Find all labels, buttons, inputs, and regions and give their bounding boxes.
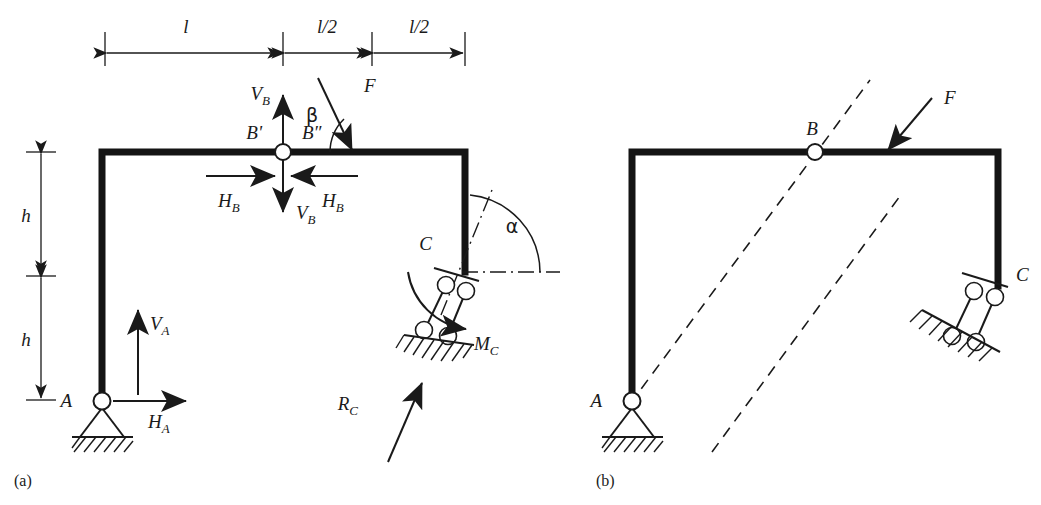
caption-a: (a) (14, 472, 32, 490)
pin-circle-a-b (624, 393, 641, 410)
joint-label-a-b: A (588, 390, 602, 411)
link-pin-lower-1 (416, 322, 433, 339)
angle-label-beta: β (306, 104, 318, 126)
panel-b: A B F (588, 80, 1029, 490)
joint-label-b-panel-b: B (806, 118, 818, 139)
line-of-action-ab (630, 80, 870, 404)
hinge-circle-b-panel-b (807, 144, 823, 160)
angle-label-alpha: α (506, 215, 519, 237)
reaction-label-ha: HA (147, 411, 170, 436)
reaction-rc: RC (337, 383, 422, 462)
dimension-span-l-half-2: l/2 (374, 16, 463, 53)
angle-arc-beta (330, 119, 344, 152)
dimension-label-l: l (183, 16, 188, 37)
pin-circle-a (94, 393, 111, 410)
joint-label-c-b: C (1016, 264, 1029, 285)
dimension-label-l-half-1: l/2 (317, 16, 338, 37)
dimension-span-l: l (107, 16, 281, 53)
dimension-span-l-half-1: l/2 (285, 16, 370, 53)
internal-force-vb-down: VB (283, 160, 316, 227)
hinge-b-panel-b: B (806, 118, 823, 160)
support-c-b: C (910, 264, 1029, 361)
link-pin-upper-1-b (966, 283, 983, 300)
moment-arc-mc (408, 272, 466, 329)
support-a-pin: A (58, 390, 133, 452)
reaction-ha: HA (113, 401, 186, 436)
figure-canvas: l l/2 l/2 h h (0, 0, 1041, 505)
reaction-label-va: VA (150, 313, 170, 338)
dimension-label-h-lower: h (21, 329, 31, 350)
dimension-label-h-upper: h (21, 205, 31, 226)
frame-members-b (632, 152, 998, 400)
moment-label-mc: MC (473, 333, 499, 358)
dimension-label-l-half-2: l/2 (409, 16, 430, 37)
applied-force-f-b: F (888, 87, 956, 150)
link-pin-upper-2-b (987, 289, 1004, 306)
reaction-label-rc: RC (337, 393, 359, 418)
panel-a: l l/2 l/2 h h (14, 16, 560, 490)
engineering-figure: l l/2 l/2 h h (0, 0, 1041, 505)
support-a-pin-b: A (588, 390, 663, 452)
link-pin-upper-2 (458, 283, 475, 300)
dimension-chain-top: l l/2 l/2 (105, 16, 465, 66)
ground-hatching-a-b (602, 437, 663, 452)
dimension-height-h-lower: h (21, 278, 41, 398)
force-label-f-a: F (363, 75, 376, 96)
hinge-circle-b (275, 144, 291, 160)
joint-label-b-left: B' (246, 122, 263, 143)
caption-b: (b) (596, 472, 615, 490)
internal-label-vb-up: VB (250, 83, 270, 108)
dimension-height-h-upper: h (21, 154, 41, 274)
line-of-action-f (712, 196, 900, 452)
reaction-va: VA (138, 310, 170, 395)
link-pin-upper-1 (438, 277, 455, 294)
joint-label-c-a: C (419, 233, 432, 254)
internal-force-hb-left: HB (206, 176, 275, 215)
internal-label-hb-right: HB (321, 190, 344, 215)
internal-label-hb-left: HB (217, 190, 240, 215)
ground-hatching-a (72, 437, 133, 452)
internal-label-vb-down: VB (296, 202, 316, 227)
force-label-f-b: F (943, 87, 956, 108)
dimension-chain-left: h h (21, 152, 56, 400)
joint-label-a: A (58, 390, 72, 411)
